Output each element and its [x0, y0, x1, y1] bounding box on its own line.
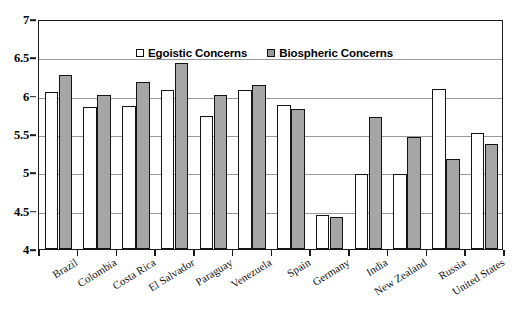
y-tick-label: 5: [23, 166, 29, 181]
y-tick-mark: [30, 173, 36, 175]
gray-square-swatch-icon: [267, 49, 275, 57]
bar-biospheric: [485, 144, 499, 249]
legend-label-egoistic: Egoistic Concerns: [148, 47, 247, 59]
y-tick-label: 4.5: [14, 204, 29, 219]
bar-biospheric: [291, 109, 305, 249]
bar-biospheric: [330, 217, 344, 249]
chart-legend: Egoistic Concerns Biospheric Concerns: [136, 47, 393, 59]
bar-egoistic: [393, 174, 407, 249]
legend-entry-egoistic: Egoistic Concerns: [136, 47, 247, 59]
legend-label-biospheric: Biospheric Concerns: [279, 47, 393, 59]
x-axis-label: Paraguay: [194, 256, 235, 288]
bar-egoistic: [161, 90, 175, 249]
y-tick-label: 5.5: [14, 128, 29, 143]
bar-chart: 76.565.554.54 Egoistic Concerns Biospher…: [0, 0, 517, 319]
legend-entry-biospheric: Biospheric Concerns: [267, 47, 393, 59]
bar-biospheric: [252, 85, 266, 249]
y-tick-label: 6.5: [14, 51, 29, 66]
bar-egoistic: [45, 92, 59, 249]
bar-egoistic: [471, 133, 485, 249]
bar-egoistic: [83, 107, 97, 249]
y-tick-mark: [30, 211, 36, 213]
y-tick-mark: [30, 96, 36, 98]
bar-egoistic: [122, 106, 136, 249]
x-axis-label: Germany: [310, 256, 351, 288]
plot-area: Egoistic Concerns Biospheric Concerns: [38, 20, 503, 250]
bar-biospheric: [407, 137, 421, 249]
bar-biospheric: [97, 95, 111, 249]
x-axis-label: India: [364, 256, 390, 278]
x-axis-label: Venezuela: [229, 256, 274, 290]
bar-egoistic: [355, 174, 369, 249]
bar-biospheric: [214, 95, 228, 249]
bar-biospheric: [136, 82, 150, 249]
bar-group: [427, 21, 466, 249]
y-tick-mark: [30, 58, 36, 60]
bar-egoistic: [238, 90, 252, 249]
bar-group: [78, 21, 117, 249]
bar-egoistic: [277, 105, 291, 249]
white-square-swatch-icon: [136, 49, 144, 57]
y-tick-mark: [30, 134, 36, 136]
x-axis-labels: BrazilColombiaCosta RicaEl SalvadorParag…: [38, 256, 517, 319]
bar-biospheric: [175, 63, 189, 249]
bar-egoistic: [316, 215, 330, 250]
y-axis: 76.565.554.54: [0, 20, 36, 250]
bar-group: [465, 21, 503, 249]
y-tick-label: 7: [23, 13, 29, 28]
x-axis-label: Spain: [285, 256, 313, 279]
bar-biospheric: [446, 159, 460, 249]
bar-egoistic: [432, 89, 446, 249]
bar-egoistic: [200, 116, 214, 249]
x-axis-label: Brazil: [51, 256, 80, 280]
y-tick-label: 6: [23, 89, 29, 104]
y-tick-mark: [30, 249, 36, 251]
bar-biospheric: [59, 75, 73, 249]
bar-group: [39, 21, 78, 249]
y-tick-label: 4: [23, 243, 29, 258]
bar-group: [388, 21, 427, 249]
bar-biospheric: [369, 117, 383, 249]
y-tick-mark: [30, 19, 36, 21]
